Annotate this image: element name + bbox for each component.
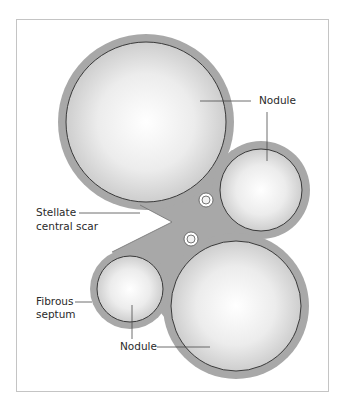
label-nodule-bottom: Nodule bbox=[120, 340, 157, 353]
lower-left-nodule bbox=[97, 256, 163, 322]
label-stellate-line1: Stellate bbox=[36, 206, 76, 219]
lower-right-nodule bbox=[171, 241, 301, 371]
upper-right-nodule bbox=[220, 149, 302, 231]
diagram-canvas bbox=[0, 0, 343, 409]
large-upper-nodule bbox=[66, 42, 226, 202]
label-stellate-line2: central scar bbox=[36, 220, 98, 233]
label-fibrous-line2: septum bbox=[36, 308, 76, 321]
vessel-upper bbox=[199, 193, 213, 207]
label-nodule-top: Nodule bbox=[259, 94, 296, 107]
vessel-lower bbox=[184, 232, 198, 246]
label-fibrous-line1: Fibrous bbox=[36, 295, 74, 308]
